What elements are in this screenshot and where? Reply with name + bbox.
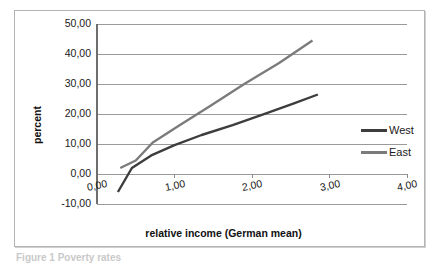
figure-container: -10,000,0010,0020,0030,0040,0050,00 0,00… [0, 0, 437, 264]
legend-swatch-icon [361, 151, 387, 154]
legend-label: East [389, 146, 411, 158]
y-tick-label: 10,00 [45, 137, 91, 149]
y-tick-label: 30,00 [45, 77, 91, 89]
x-axis-title: relative income (German mean) [111, 227, 336, 239]
legend-label: West [389, 124, 414, 136]
figure-caption-fragment: Figure 1 Poverty rates [16, 252, 316, 264]
legend-item-east[interactable]: East [361, 141, 437, 163]
y-tick-label: 50,00 [45, 17, 91, 29]
y-tick-label: -10,00 [45, 197, 91, 209]
chart-legend: WestEast [361, 119, 437, 163]
y-axis-title: percent [31, 90, 43, 160]
chart-frame: -10,000,0010,0020,0030,0040,0050,00 0,00… [14, 10, 425, 247]
y-tick-label: 0,00 [45, 167, 91, 179]
legend-item-west[interactable]: West [361, 119, 437, 141]
series-lines-group [118, 41, 318, 193]
legend-swatch-icon [361, 129, 387, 132]
y-tick-label: 20,00 [45, 107, 91, 119]
y-tick-label: 40,00 [45, 47, 91, 59]
series-line-east [120, 41, 312, 169]
series-line-west [118, 95, 318, 193]
